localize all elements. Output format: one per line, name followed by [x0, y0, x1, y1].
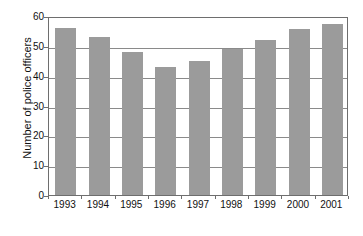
- x-axis-tick-label: 1998: [215, 199, 248, 211]
- y-axis-tick-label: 50: [22, 42, 44, 52]
- bar: [55, 28, 76, 195]
- x-axis-tick-label: 2000: [281, 199, 314, 211]
- x-axis-tick-labels: 199319941995199619971998199920002001: [48, 199, 348, 215]
- y-axis-tick-label: 20: [22, 131, 44, 141]
- x-axis-tick-label: 1999: [248, 199, 281, 211]
- x-axis-tick-mark: [348, 196, 349, 199]
- bar: [322, 24, 343, 196]
- bar: [289, 29, 310, 195]
- x-axis-tick-label: 1997: [181, 199, 214, 211]
- bar: [122, 52, 143, 195]
- y-axis-tick-label: 10: [22, 161, 44, 171]
- bar: [189, 61, 210, 195]
- x-axis-tick-label: 1994: [81, 199, 114, 211]
- x-axis-tick-label: 1996: [148, 199, 181, 211]
- y-axis-tick-label: 40: [22, 72, 44, 82]
- bar-chart: Number of police officers 0102030405060 …: [0, 0, 363, 236]
- x-axis-tick-label: 1995: [115, 199, 148, 211]
- plot-area: [48, 17, 348, 196]
- bars-series: [49, 18, 347, 195]
- y-axis-tick-labels: 0102030405060: [18, 17, 44, 196]
- bar: [89, 37, 110, 195]
- y-axis-tick-label: 30: [22, 102, 44, 112]
- x-axis-tick-label: 1993: [48, 199, 81, 211]
- y-axis-tick-label: 60: [22, 12, 44, 22]
- bar: [255, 40, 276, 195]
- bar: [222, 49, 243, 195]
- x-axis-tick-label: 2001: [315, 199, 348, 211]
- y-axis-tick-label: 0: [22, 191, 44, 201]
- bar: [155, 67, 176, 195]
